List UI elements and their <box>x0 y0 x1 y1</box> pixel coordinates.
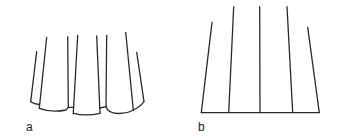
fan-line-4 <box>287 7 293 113</box>
figure-b-label: b <box>198 121 205 133</box>
figure-a-label: a <box>26 121 33 133</box>
pleat-line-5 <box>97 36 100 113</box>
figure-a-scalloped-hem <box>31 102 144 115</box>
fan-line-2 <box>229 7 234 113</box>
pleat-line-1 <box>31 52 37 102</box>
figure-b-fan-lines <box>201 7 319 113</box>
pleat-line-3 <box>68 37 69 108</box>
pleat-line-6 <box>106 35 107 106</box>
figure-a-pleats <box>31 32 144 113</box>
fan-line-5 <box>308 27 320 112</box>
diagram-canvas <box>0 0 344 138</box>
pleat-line-2 <box>39 37 46 108</box>
pleat-line-8 <box>137 52 144 101</box>
fan-line-1 <box>201 22 212 112</box>
pleat-line-7 <box>126 32 134 110</box>
pleat-line-4 <box>73 35 77 113</box>
